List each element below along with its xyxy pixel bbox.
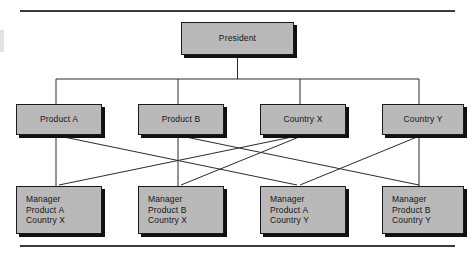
node-product-a[interactable]: Product A bbox=[16, 104, 102, 135]
node-manager-4-label: Manager Product B Country Y bbox=[383, 194, 463, 226]
node-product-b[interactable]: Product B bbox=[138, 104, 224, 135]
node-manager-product-a-country-x[interactable]: Manager Product A Country X bbox=[16, 186, 102, 234]
node-president-label: President bbox=[182, 33, 293, 44]
node-country-x[interactable]: Country X bbox=[260, 104, 346, 135]
node-country-y-label: Country Y bbox=[383, 114, 463, 125]
node-manager-2-label: Manager Product B Country X bbox=[139, 194, 223, 226]
node-country-y[interactable]: Country Y bbox=[382, 104, 464, 135]
node-country-x-label: Country X bbox=[261, 114, 345, 125]
node-manager-1-label: Manager Product A Country X bbox=[17, 194, 101, 226]
node-manager-product-a-country-y[interactable]: Manager Product A Country Y bbox=[260, 186, 346, 234]
edge-country-y-to-manager-3 bbox=[300, 137, 417, 185]
edge-country-x-to-manager-2 bbox=[181, 137, 299, 185]
node-product-b-label: Product B bbox=[139, 114, 223, 125]
organization-chart-figure: President Product A Product B Country X … bbox=[0, 0, 476, 255]
edge-product-b-to-manager-4 bbox=[181, 136, 419, 185]
node-product-a-label: Product A bbox=[17, 114, 101, 125]
node-president[interactable]: President bbox=[181, 22, 294, 55]
node-manager-product-b-country-x[interactable]: Manager Product B Country X bbox=[138, 186, 224, 234]
node-manager-3-label: Manager Product A Country Y bbox=[261, 194, 345, 226]
node-manager-product-b-country-y[interactable]: Manager Product B Country Y bbox=[382, 186, 464, 234]
